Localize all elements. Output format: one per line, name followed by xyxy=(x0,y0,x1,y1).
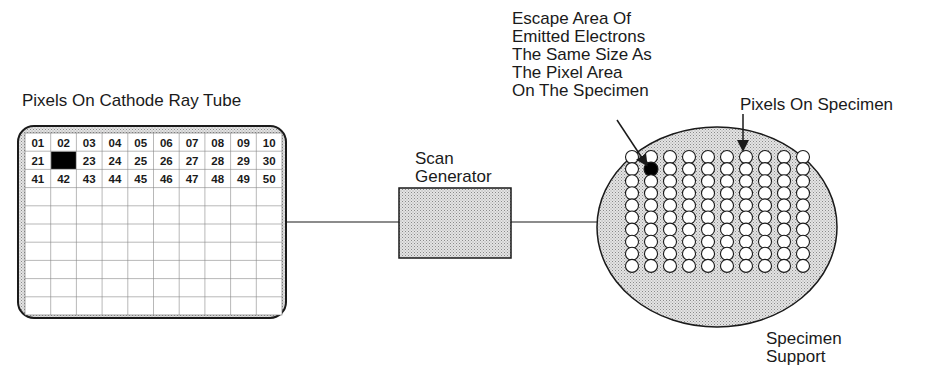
svg-text:04: 04 xyxy=(109,137,122,149)
svg-text:48: 48 xyxy=(211,173,224,185)
svg-text:23: 23 xyxy=(83,155,96,167)
svg-text:42: 42 xyxy=(57,173,70,185)
svg-text:27: 27 xyxy=(186,155,199,167)
specimen-support-label: Specimen Support xyxy=(766,330,842,366)
svg-text:08: 08 xyxy=(211,137,224,149)
crt-title: Pixels On Cathode Ray Tube xyxy=(22,92,241,110)
svg-text:41: 41 xyxy=(31,173,44,185)
svg-text:46: 46 xyxy=(160,173,173,185)
svg-text:02: 02 xyxy=(57,137,70,149)
highlighted-crt-pixel xyxy=(51,152,76,169)
svg-text:45: 45 xyxy=(134,173,147,185)
svg-text:03: 03 xyxy=(83,137,96,149)
svg-text:25: 25 xyxy=(134,155,147,167)
svg-text:10: 10 xyxy=(263,137,276,149)
svg-text:28: 28 xyxy=(211,155,224,167)
svg-text:47: 47 xyxy=(186,173,199,185)
svg-text:09: 09 xyxy=(237,137,250,149)
svg-text:49: 49 xyxy=(237,173,250,185)
svg-text:21: 21 xyxy=(31,155,44,167)
svg-text:06: 06 xyxy=(160,137,173,149)
pixels-on-specimen-label: Pixels On Specimen xyxy=(740,96,893,114)
escape-area-label: Escape Area Of Emitted Electrons The Sam… xyxy=(512,10,652,100)
scan-generator-label: Scan Generator xyxy=(415,150,492,186)
scan-generator-box xyxy=(399,188,511,258)
scan-diagram: 0102030405060708091021232425262728293041… xyxy=(0,0,946,383)
crt-screen: 0102030405060708091021232425262728293041… xyxy=(18,126,286,318)
filled-specimen-pixel xyxy=(644,162,658,176)
svg-text:30: 30 xyxy=(263,155,276,167)
svg-text:29: 29 xyxy=(237,155,250,167)
svg-text:43: 43 xyxy=(83,173,96,185)
svg-text:01: 01 xyxy=(31,137,44,149)
svg-text:07: 07 xyxy=(186,137,199,149)
crt-pixel-grid: 0102030405060708091021232425262728293041… xyxy=(25,133,282,315)
svg-text:50: 50 xyxy=(263,173,276,185)
svg-text:05: 05 xyxy=(134,137,147,149)
svg-text:44: 44 xyxy=(109,173,122,185)
svg-text:26: 26 xyxy=(160,155,173,167)
svg-text:24: 24 xyxy=(109,155,122,167)
specimen-support xyxy=(597,127,837,327)
